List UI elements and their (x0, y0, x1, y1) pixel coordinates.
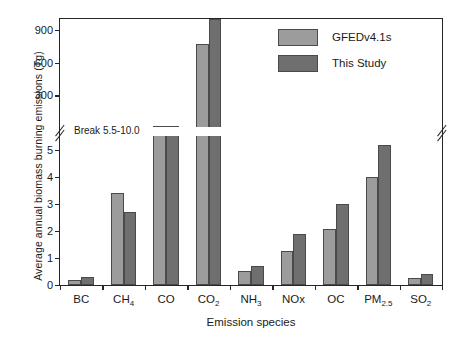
lower-value-pane (60, 136, 442, 285)
bar-PM2.5-gfed (366, 177, 379, 285)
y-tick-upper (55, 95, 60, 96)
bar-CO-gfed (153, 136, 166, 285)
bar-upper-CO2-gfed (196, 44, 209, 127)
y-tick-lower (55, 177, 60, 178)
x-tick (230, 285, 231, 290)
x-axis-label-CH4: CH4 (113, 293, 134, 308)
x-tick (315, 285, 316, 290)
x-axis-label-PM2.5: PM2.5 (364, 293, 392, 308)
x-axis-label-BC: BC (73, 293, 89, 305)
legend: GFEDv4.1s This Study (278, 24, 391, 76)
bar-upper-CO2-this-study (209, 19, 222, 127)
bar-CH4-this-study (124, 212, 137, 285)
y-tick-label-lower: 2 (47, 225, 53, 237)
x-tick (357, 285, 358, 290)
x-axis-label-CO: CO (157, 293, 174, 305)
bar-BC-this-study (81, 277, 94, 285)
y-tick-upper (55, 30, 60, 31)
x-tick (145, 285, 146, 290)
bar-CO2-gfed (196, 136, 209, 285)
x-tick (272, 285, 273, 290)
y-tick-lower (55, 231, 60, 232)
bar-NH3-this-study (251, 266, 264, 285)
y-axis-title: Average annual biomass burning emissions… (32, 36, 44, 296)
y-tick-lower (55, 150, 60, 151)
legend-swatch-this-study (278, 55, 318, 72)
y-tick-label-upper: 900 (35, 24, 53, 36)
x-axis-label-OC: OC (327, 293, 344, 305)
bar-BC-gfed (68, 280, 81, 285)
x-tick (187, 285, 188, 290)
y-tick-label-upper: 300 (35, 89, 53, 101)
x-tick (60, 285, 61, 290)
legend-swatch-gfed (278, 29, 318, 46)
bar-SO2-this-study (421, 274, 434, 285)
bar-SO2-gfed (408, 278, 421, 285)
x-tick (400, 285, 401, 290)
legend-item-this-study: This Study (278, 50, 391, 76)
bar-OC-this-study (336, 204, 349, 285)
bar-NH3-gfed (238, 271, 251, 285)
bar-NOx-gfed (281, 251, 294, 285)
legend-label-this-study: This Study (332, 57, 386, 69)
y-tick-label-lower: 3 (47, 198, 53, 210)
bar-CO-this-study (166, 136, 179, 285)
y-tick-label-lower: 5 (47, 144, 53, 156)
x-axis-label-NOx: NOx (282, 293, 305, 305)
bar-CO2-this-study (209, 136, 222, 285)
legend-item-gfed: GFEDv4.1s (278, 24, 391, 50)
bar-CH4-gfed (111, 193, 124, 285)
y-tick-lower (55, 204, 60, 205)
chart-figure: Average annual biomass burning emissions… (0, 0, 465, 342)
x-axis-label-NH3: NH3 (240, 293, 261, 308)
x-axis-label-CO2: CO2 (198, 293, 220, 308)
y-tick-upper (55, 63, 60, 64)
y-tick-label-lower: 1 (47, 252, 53, 264)
y-tick-lower (55, 258, 60, 259)
bar-NOx-this-study (293, 234, 306, 285)
y-tick-label-lower: 4 (47, 171, 53, 183)
y-tick-label-lower: 0 (47, 279, 53, 291)
x-axis-title: Emission species (59, 316, 443, 328)
x-tick (442, 285, 443, 290)
bar-PM2.5-this-study (378, 145, 391, 285)
x-tick (102, 285, 103, 290)
y-tick-label-upper: 600 (35, 57, 53, 69)
bar-OC-gfed (323, 229, 336, 285)
x-axis-label-SO2: SO2 (410, 293, 431, 308)
axis-break-label: Break 5.5-10.0 (74, 125, 140, 136)
legend-label-gfed: GFEDv4.1s (332, 31, 391, 43)
